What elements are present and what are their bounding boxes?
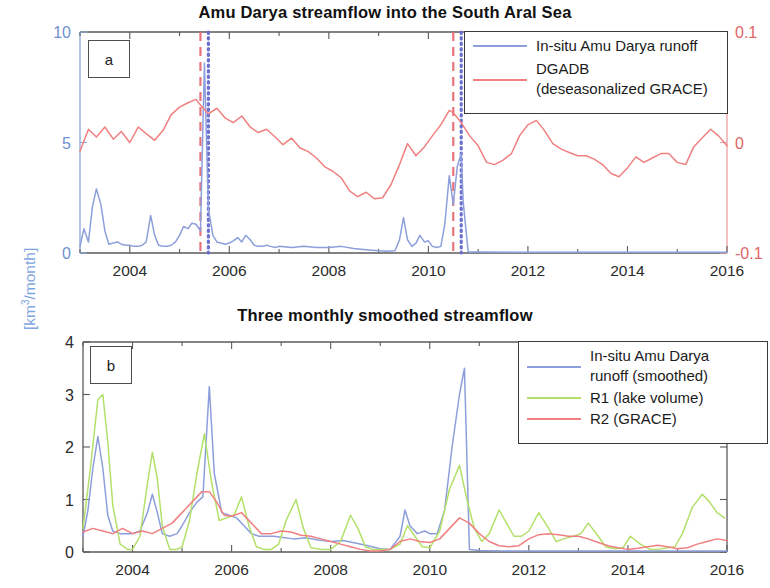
legend-label: DGADB (deseasonalized GRACE) — [536, 59, 708, 99]
legend-line-swatch — [525, 409, 583, 429]
svg-text:2010: 2010 — [413, 561, 448, 578]
svg-text:2012: 2012 — [512, 561, 546, 578]
svg-text:2014: 2014 — [611, 561, 646, 578]
svg-text:2: 2 — [65, 439, 74, 456]
svg-text:2016: 2016 — [710, 262, 744, 279]
svg-text:-0.1: -0.1 — [735, 245, 763, 262]
svg-text:2014: 2014 — [610, 262, 645, 279]
svg-text:1: 1 — [65, 492, 74, 509]
panel-a: Amu Darya streamflow into the South Aral… — [0, 0, 770, 295]
svg-text:2010: 2010 — [411, 262, 446, 279]
svg-text:2008: 2008 — [313, 561, 347, 578]
figure-root: [km3/month] Amu Darya streamflow into th… — [0, 0, 770, 588]
panel-b: Three monthly smoothed streamflow 200420… — [0, 295, 770, 588]
legend-item: R2 (GRACE) — [525, 409, 759, 430]
svg-text:0: 0 — [62, 245, 71, 262]
legend-item: R1 (lake volume) — [525, 388, 759, 409]
svg-text:4: 4 — [65, 334, 74, 351]
svg-text:2012: 2012 — [511, 262, 545, 279]
legend-label: R1 (lake volume) — [590, 388, 703, 408]
svg-text:0: 0 — [65, 544, 74, 561]
svg-text:2006: 2006 — [214, 561, 248, 578]
legend-item: In-situ Amu Darya runoff (smoothed) — [525, 346, 759, 388]
panel-a-legend: In-situ Amu Darya runoff DGADB (deseason… — [464, 31, 728, 114]
legend-item: In-situ Amu Darya runoff — [471, 36, 719, 57]
legend-line-swatch — [525, 346, 583, 388]
svg-text:2006: 2006 — [212, 262, 246, 279]
panel-b-tag: b — [90, 346, 132, 384]
legend-label: R2 (GRACE) — [590, 409, 677, 429]
svg-text:0: 0 — [735, 135, 744, 152]
legend-item: DGADB (deseasonalized GRACE) — [471, 59, 719, 101]
legend-label: In-situ Amu Darya runoff (smoothed) — [590, 346, 709, 386]
svg-text:0.1: 0.1 — [735, 24, 757, 41]
svg-text:2004: 2004 — [113, 262, 148, 279]
svg-text:10: 10 — [53, 24, 71, 41]
panel-a-title: Amu Darya streamflow into the South Aral… — [0, 3, 770, 22]
svg-text:2008: 2008 — [312, 262, 346, 279]
svg-text:2016: 2016 — [710, 561, 744, 578]
legend-line-swatch — [525, 388, 583, 408]
legend-label: In-situ Amu Darya runoff — [536, 36, 697, 56]
panel-b-legend: In-situ Amu Darya runoff (smoothed) R1 (… — [518, 341, 768, 444]
panel-a-tag: a — [88, 40, 130, 78]
legend-line-swatch — [471, 36, 529, 56]
svg-text:3: 3 — [65, 387, 74, 404]
svg-text:5: 5 — [62, 135, 71, 152]
panel-b-title: Three monthly smoothed streamflow — [0, 306, 770, 325]
svg-text:2004: 2004 — [115, 561, 150, 578]
legend-line-swatch — [471, 59, 529, 101]
